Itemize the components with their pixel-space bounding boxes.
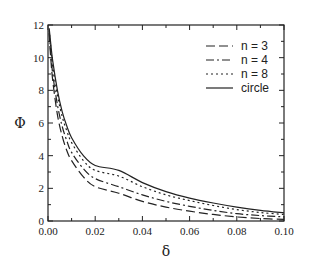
x-tick-label: 0.08 [227,225,247,237]
y-tick-label: 2 [39,182,45,194]
legend-label: n = 4 [241,53,268,67]
line-chart: 0.000.020.040.060.080.10024681012 δ Φ n … [0,0,311,269]
x-tick-label: 0.04 [133,225,153,237]
x-axis-label: δ [162,243,170,259]
legend-label: n = 3 [241,39,268,53]
y-tick-label: 8 [39,84,45,96]
y-tick-label: 4 [39,150,45,162]
legend: n = 3n = 4n = 8circle [206,39,269,95]
y-tick-label: 0 [39,215,45,227]
legend-label: circle [241,81,269,95]
y-tick-label: 10 [33,52,45,64]
y-tick-label: 6 [39,117,45,129]
x-tick-label: 0.02 [86,225,105,237]
x-tick-label: 0.06 [180,225,200,237]
x-tick-label: 0.10 [274,225,294,237]
legend-label: n = 8 [241,67,268,81]
y-tick-label: 12 [33,19,44,31]
y-axis-label: Φ [14,115,25,131]
